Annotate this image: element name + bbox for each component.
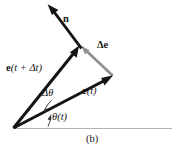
- e-t-arrowhead: [101, 75, 113, 85]
- label-e-t-plus-delta-t-arg: (t + Δt): [11, 62, 42, 73]
- label-delta-e-text: Δe: [97, 39, 108, 50]
- label-e-t-arg: (t): [87, 85, 97, 96]
- delta-theta-arc: [42, 100, 52, 112]
- label-theta-t-arg: (t): [57, 111, 67, 122]
- label-e-t-plus-delta-t: e(t + Δt): [6, 63, 42, 74]
- figure-caption: (b): [86, 134, 98, 145]
- label-theta-t: θ(t): [52, 112, 67, 123]
- label-delta-theta-text: Δθ: [42, 87, 53, 98]
- label-e-t: e(t): [82, 86, 97, 97]
- vector-diagram-canvas: [0, 0, 179, 152]
- vector-diagram-figure: n Δe e(t + Δt) e(t) Δθ θ(t) (b): [0, 0, 179, 152]
- label-normal-vector-n: n: [63, 14, 69, 25]
- label-delta-e: Δe: [97, 40, 108, 51]
- normal-vector-n: [48, 4, 82, 48]
- theta-t-arc: [48, 114, 52, 126]
- label-delta-theta: Δθ: [42, 88, 53, 99]
